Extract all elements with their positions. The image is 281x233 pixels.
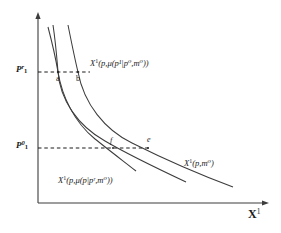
point-label-b: b [76, 75, 80, 83]
curve-compensated-pr [48, 27, 136, 171]
x-axis-arrowhead [262, 200, 269, 205]
curve-label-compensated-p1: X1(p,μ(p¹|p⁰,m⁰)) [90, 58, 149, 68]
y-axis-tick-lower: P01 [16, 140, 28, 151]
x-axis-title-superscript: 1 [257, 207, 261, 216]
x-axis-title: X1 [248, 208, 260, 220]
point-label-e: e [147, 136, 151, 144]
point-label-a: a [56, 75, 60, 83]
y-axis-arrowhead [35, 12, 40, 19]
curve-label-compensated-pr-expr: (p,μ(p|pʳ,m⁰)) [66, 175, 112, 185]
curve-label-marshallian: X1(p,m⁰) [184, 158, 214, 168]
point-marker-a [57, 71, 59, 73]
point-label-f: f [110, 137, 112, 145]
y-axis-tick-upper: Pr1 [16, 64, 27, 75]
point-marker-b [77, 71, 79, 73]
curve-label-compensated-p1-expr: (p,μ(p¹|p⁰,m⁰)) [98, 58, 148, 68]
x-axis-title-base: X [248, 207, 257, 221]
point-marker-e [147, 147, 149, 149]
point-marker-f [112, 147, 114, 149]
demand-curve-figure: Pr1 P01 X1 X1(p,μ(p¹|p⁰,m⁰)) X1(p,m⁰) X1… [0, 0, 281, 233]
figure-canvas [0, 0, 281, 233]
curve-label-compensated-pr: X1(p,μ(p|pʳ,m⁰)) [58, 175, 113, 185]
y-axis-tick-upper-subscript: 1 [24, 67, 27, 74]
curve-label-marshallian-expr: (p,m⁰) [192, 158, 214, 168]
y-axis-tick-lower-subscript: 1 [25, 143, 28, 150]
